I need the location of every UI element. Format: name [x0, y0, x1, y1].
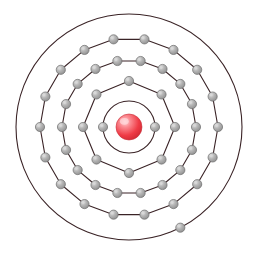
- electron-sphere-s2-e4: [92, 155, 101, 164]
- electron: [73, 165, 82, 174]
- electron: [170, 122, 179, 131]
- electron-sphere-s3-e15: [136, 56, 145, 65]
- electron-sphere-s3-e13: [91, 64, 100, 73]
- electron: [193, 180, 202, 189]
- electron-highlight: [159, 157, 162, 160]
- electron-sphere-s4-e15: [140, 35, 149, 44]
- electron-highlight: [172, 124, 175, 127]
- electron-highlight: [37, 124, 40, 127]
- electron-highlight: [75, 81, 78, 84]
- electron-sphere-s4-e12: [56, 65, 65, 74]
- electron: [176, 165, 185, 174]
- electron: [124, 168, 133, 177]
- electron: [140, 210, 149, 219]
- electron: [109, 210, 118, 219]
- electron-highlight: [63, 147, 66, 150]
- electron: [56, 65, 65, 74]
- electron-sphere-s3-e9: [61, 145, 70, 154]
- atom-canvas: [0, 0, 260, 254]
- electron: [61, 99, 70, 108]
- electron-sphere-s1-e1: [150, 122, 159, 131]
- electron: [78, 122, 87, 131]
- electron-sphere-s2-e6: [92, 90, 101, 99]
- electron-sphere-s4-e11: [41, 92, 50, 101]
- electron: [136, 56, 145, 65]
- electron-highlight: [189, 101, 192, 104]
- electron-sphere-s3-e1: [191, 122, 200, 131]
- electron-sphere-s3-e2: [187, 145, 196, 154]
- electron-highlight: [160, 66, 163, 69]
- electron-sphere-s4-e14: [109, 35, 118, 44]
- electron: [176, 223, 185, 232]
- electron-highlight: [115, 58, 118, 61]
- bohr-atom-diagram: [0, 0, 260, 254]
- electron-highlight: [94, 92, 97, 95]
- electron-sphere-s5-e1: [176, 223, 185, 232]
- electron-sphere-s3-e18: [187, 99, 196, 108]
- electron-highlight: [171, 201, 174, 204]
- electron-sphere-s2-e3: [124, 168, 133, 177]
- electron: [73, 79, 82, 88]
- electron-highlight: [210, 94, 213, 97]
- electron-sphere-s3-e5: [136, 188, 145, 197]
- electron: [57, 122, 66, 131]
- electron: [169, 45, 178, 54]
- electron-highlight: [94, 157, 97, 160]
- electron-sphere-s4-e2: [208, 153, 217, 162]
- electron-sphere-s4-e10: [35, 122, 44, 131]
- electron: [91, 64, 100, 73]
- electron-sphere-s4-e5: [140, 210, 149, 219]
- electron-sphere-s3-e17: [176, 79, 185, 88]
- electron: [41, 92, 50, 101]
- electron-sphere-s2-e2: [157, 155, 166, 164]
- electron-highlight: [215, 124, 218, 127]
- electron-highlight: [75, 167, 78, 170]
- electron-highlight: [63, 101, 66, 104]
- electron-highlight: [59, 124, 62, 127]
- electron-sphere-s4-e1: [213, 122, 222, 131]
- electron-highlight: [194, 67, 197, 70]
- electron-sphere-s4-e7: [80, 199, 89, 208]
- electron: [80, 199, 89, 208]
- electron-highlight: [126, 78, 129, 81]
- electron: [213, 122, 222, 131]
- electron-highlight: [58, 181, 61, 184]
- electron-sphere-s3-e7: [91, 180, 100, 189]
- electron: [187, 145, 196, 154]
- electron-highlight: [160, 182, 163, 185]
- electron-highlight: [82, 201, 85, 204]
- electron-highlight: [159, 92, 162, 95]
- electron: [109, 35, 118, 44]
- electron-highlight: [138, 190, 141, 193]
- electron-highlight: [126, 170, 129, 173]
- electron-sphere-s2-e7: [124, 76, 133, 85]
- electron-sphere-s4-e8: [56, 180, 65, 189]
- electron-highlight: [171, 47, 174, 50]
- electron: [176, 79, 185, 88]
- electron: [157, 155, 166, 164]
- electron-highlight: [43, 94, 46, 97]
- electron-highlight: [142, 212, 145, 215]
- electron: [80, 45, 89, 54]
- electron-highlight: [111, 37, 114, 40]
- electron-sphere-s3-e4: [158, 180, 167, 189]
- electron: [113, 188, 122, 197]
- electron-highlight: [115, 190, 118, 193]
- electron-highlight: [178, 81, 181, 84]
- nucleus: [116, 114, 142, 140]
- electron: [157, 90, 166, 99]
- electron: [158, 180, 167, 189]
- electron-sphere-s3-e10: [57, 122, 66, 131]
- electron-highlight: [210, 155, 213, 158]
- electron: [208, 92, 217, 101]
- electron-highlight: [138, 58, 141, 61]
- electron-sphere-s4-e16: [169, 45, 178, 54]
- electron-highlight: [189, 147, 192, 150]
- electron: [191, 122, 200, 131]
- electron-highlight: [152, 124, 155, 127]
- electron: [193, 65, 202, 74]
- electron-sphere-s4-e3: [193, 180, 202, 189]
- electron-sphere-s2-e1: [170, 122, 179, 131]
- electron: [158, 64, 167, 73]
- electron: [136, 188, 145, 197]
